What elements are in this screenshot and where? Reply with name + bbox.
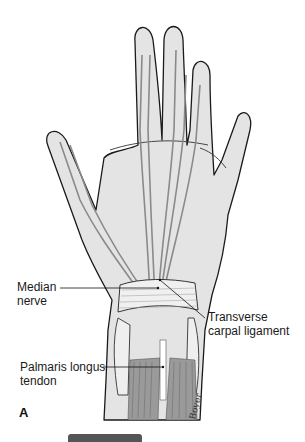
label-pl-line2: tendon [20, 374, 105, 388]
panel-letter: A [19, 405, 28, 420]
bottom-bar [68, 434, 142, 442]
label-median-nerve: Median nerve [17, 280, 56, 308]
palmaris-longus-tendon [160, 340, 166, 400]
label-tcl-line1: Transverse [208, 310, 289, 324]
label-transverse-carpal-ligament: Transverse carpal ligament [208, 310, 289, 338]
label-median-nerve-line1: Median [17, 280, 56, 294]
transverse-carpal-ligament [118, 279, 198, 312]
label-tcl-line2: carpal ligament [208, 324, 289, 338]
label-median-nerve-line2: nerve [17, 294, 56, 308]
label-pl-line1: Palmaris longus [20, 360, 105, 374]
label-palmaris-longus-tendon: Palmaris longus tendon [20, 360, 105, 388]
